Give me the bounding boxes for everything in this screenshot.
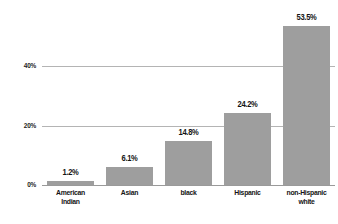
bars-layer: 1.2% American Indian 6.1% Asian 14.8% bl… bbox=[0, 0, 338, 224]
bar-label-asian: Asian bbox=[106, 188, 154, 197]
bar-american-indian[interactable] bbox=[47, 181, 94, 185]
bar-group-black: 14.8% black bbox=[162, 0, 215, 224]
bar-value-non-hispanic-white: 53.5% bbox=[283, 13, 330, 22]
bar-value-asian: 6.1% bbox=[106, 154, 153, 163]
bar-label-non-hispanic-white: non-Hispanic white bbox=[283, 188, 331, 207]
bar-non-hispanic-white[interactable] bbox=[283, 26, 330, 185]
bar-chart: 40% 20% 0% 1.2% American Indian 6.1% Asi… bbox=[0, 0, 338, 224]
bar-group-non-hispanic-white: 53.5% non-Hispanic white bbox=[280, 0, 333, 224]
bar-group-hispanic: 24.2% Hispanic bbox=[221, 0, 274, 224]
bar-label-american-indian: American Indian bbox=[47, 188, 95, 207]
bar-value-american-indian: 1.2% bbox=[47, 168, 94, 177]
bar-label-hispanic: Hispanic bbox=[224, 188, 272, 197]
bar-black[interactable] bbox=[165, 141, 212, 185]
bar-value-black: 14.8% bbox=[165, 128, 212, 137]
bar-group-asian: 6.1% Asian bbox=[103, 0, 156, 224]
bar-asian[interactable] bbox=[106, 167, 153, 185]
bar-label-black: black bbox=[165, 188, 213, 197]
bar-group-american-indian: 1.2% American Indian bbox=[44, 0, 97, 224]
bar-hispanic[interactable] bbox=[224, 113, 271, 185]
bar-value-hispanic: 24.2% bbox=[224, 100, 271, 109]
